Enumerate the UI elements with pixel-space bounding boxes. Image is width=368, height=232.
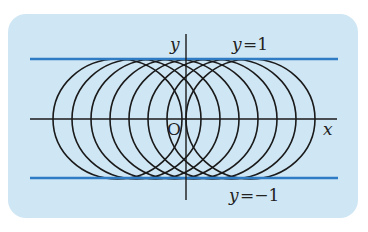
label-top-eq: =1 [243,34,268,54]
x-axis-label: x [323,119,333,139]
label-top-var: y [231,34,242,54]
label-y-equals-minus-1: y =−1 [228,185,279,205]
label-bottom-var: y [228,185,239,205]
origin-label: O [167,119,181,139]
y-axis-label: y [169,34,180,54]
label-y-equals-1: y =1 [231,34,268,54]
label-bottom-eq: =−1 [240,185,279,205]
diagram-canvas: y x O y =1 y =−1 [0,0,368,232]
